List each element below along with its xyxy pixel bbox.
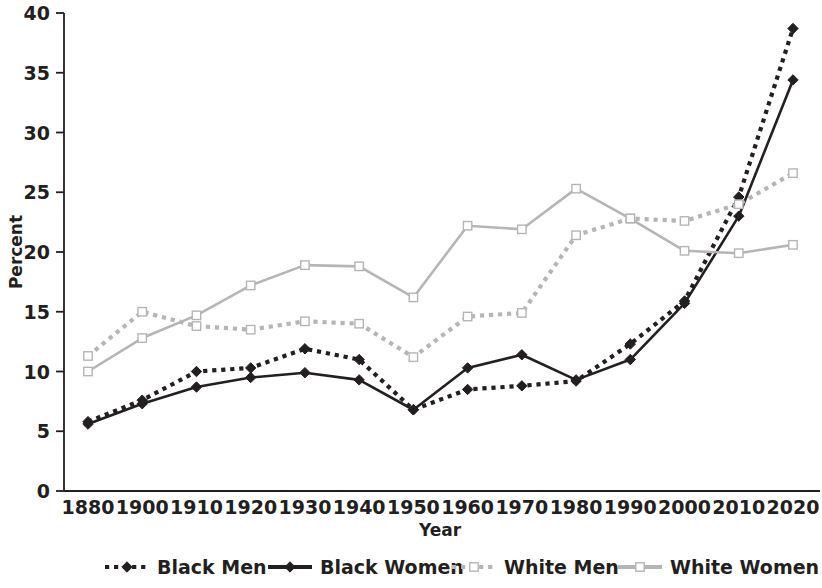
data-point-marker: [517, 350, 527, 360]
data-point-marker: [463, 312, 471, 320]
data-point-marker: [735, 249, 743, 257]
data-point-marker: [788, 23, 798, 33]
y-tick-label: 5: [37, 420, 50, 442]
data-point-marker: [192, 311, 200, 319]
legend-label: Black Women: [320, 556, 464, 578]
legend-item-black-women[interactable]: Black Women: [268, 556, 464, 578]
data-point-marker: [462, 384, 472, 394]
data-point-marker: [517, 381, 527, 391]
data-point-marker: [636, 563, 644, 571]
data-point-marker: [122, 562, 132, 572]
legend-label: White Men: [504, 556, 619, 578]
x-tick-label: 1950: [387, 496, 440, 518]
x-axis-ticks: 1880190019101920193019401950196019701980…: [62, 496, 820, 518]
x-tick-label: 1940: [333, 496, 386, 518]
y-tick-label: 15: [24, 301, 50, 323]
data-point-marker: [735, 200, 743, 208]
data-point-marker: [572, 184, 580, 192]
x-tick-label: 1930: [278, 496, 331, 518]
y-tick-label: 25: [24, 181, 50, 203]
data-point-marker: [355, 262, 363, 270]
line-chart: 0510152025303540 18801900191019201930194…: [0, 0, 822, 588]
data-point-marker: [680, 247, 688, 255]
data-point-marker: [680, 217, 688, 225]
data-point-marker: [518, 225, 526, 233]
x-tick-label: 1880: [62, 496, 115, 518]
data-point-marker: [463, 222, 471, 230]
x-tick-label: 1970: [495, 496, 548, 518]
x-tick-label: 1910: [170, 496, 223, 518]
x-tick-label: 2010: [712, 496, 765, 518]
data-point-marker: [470, 563, 478, 571]
data-point-marker: [300, 344, 310, 354]
series-white-women: [84, 184, 797, 375]
data-point-marker: [409, 293, 417, 301]
legend-item-white-men[interactable]: White Men: [452, 556, 619, 578]
y-axis-ticks: 0510152025303540: [24, 2, 64, 502]
data-point-marker: [789, 241, 797, 249]
y-tick-label: 0: [37, 480, 50, 502]
data-point-marker: [285, 562, 295, 572]
data-point-marker: [409, 353, 417, 361]
data-point-marker: [788, 75, 798, 85]
data-point-marker: [572, 231, 580, 239]
data-point-marker: [789, 169, 797, 177]
chart-legend: Black MenBlack WomenWhite MenWhite Women: [105, 556, 819, 578]
series-black-men: [83, 23, 798, 427]
data-point-marker: [84, 352, 92, 360]
y-tick-label: 35: [24, 62, 50, 84]
x-tick-label: 2020: [767, 496, 820, 518]
data-point-marker: [191, 382, 201, 392]
legend-label: White Women: [670, 556, 819, 578]
data-point-marker: [626, 214, 634, 222]
data-point-marker: [84, 367, 92, 375]
data-point-marker: [245, 372, 255, 382]
data-point-marker: [246, 281, 254, 289]
y-axis-title: Percent: [6, 215, 26, 289]
series-white-men: [84, 169, 797, 361]
y-tick-label: 40: [24, 2, 50, 24]
data-point-marker: [191, 366, 201, 376]
x-tick-label: 1900: [116, 496, 169, 518]
x-tick-label: 1980: [550, 496, 603, 518]
data-point-marker: [245, 363, 255, 373]
data-point-marker: [301, 261, 309, 269]
y-tick-label: 10: [24, 361, 50, 383]
data-point-marker: [138, 308, 146, 316]
legend-item-white-women[interactable]: White Women: [618, 556, 819, 578]
data-point-marker: [192, 322, 200, 330]
legend-label: Black Men: [157, 556, 267, 578]
legend-item-black-men[interactable]: Black Men: [105, 556, 267, 578]
y-tick-label: 20: [24, 241, 50, 263]
data-point-marker: [301, 317, 309, 325]
data-point-marker: [354, 375, 364, 385]
data-point-marker: [518, 309, 526, 317]
data-point-marker: [355, 320, 363, 328]
data-point-marker: [138, 334, 146, 342]
data-point-marker: [246, 325, 254, 333]
chart-svg: 0510152025303540 18801900191019201930194…: [0, 0, 822, 588]
x-tick-label: 1920: [224, 496, 277, 518]
x-tick-label: 1990: [604, 496, 657, 518]
series-layer: [83, 23, 798, 429]
x-axis-title: Year: [418, 520, 462, 540]
x-tick-label: 2000: [658, 496, 711, 518]
x-tick-label: 1960: [441, 496, 494, 518]
y-tick-label: 30: [24, 122, 50, 144]
data-point-marker: [300, 367, 310, 377]
